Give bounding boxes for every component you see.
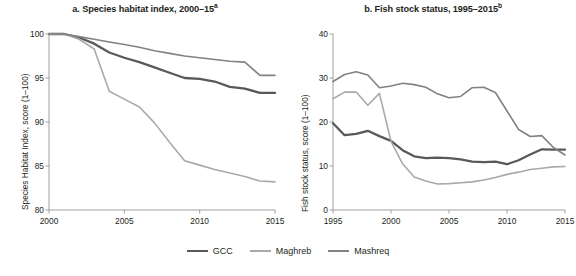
legend-swatch-icon — [328, 250, 349, 252]
plot-a-svg — [49, 34, 275, 210]
panel-b-y-axis-label: Fish stock status, score (1–100) — [300, 94, 310, 212]
legend-swatch-icon — [250, 250, 271, 252]
y-tick-label: 30 — [297, 73, 328, 83]
legend-item-gcc[interactable]: GCC — [187, 246, 233, 256]
series-line-maghreb — [333, 92, 565, 184]
y-tick-label: 10 — [297, 161, 328, 171]
figure-container: a. Species habitat index, 2000–15a Speci… — [0, 0, 576, 276]
figure-legend: GCCMaghrebMashreq — [0, 246, 576, 256]
y-tick-label: 95 — [13, 73, 44, 83]
y-tick-label: 0 — [297, 205, 328, 215]
panel-b-title: b. Fish stock status, 1995–2015b — [290, 4, 576, 14]
x-tick-label: 2010 — [498, 216, 517, 226]
series-line-mashreq — [333, 72, 565, 155]
series-line-gcc — [49, 34, 275, 93]
series-line-gcc — [333, 123, 565, 164]
chart-panel-b: b. Fish stock status, 1995–2015b Fish st… — [290, 0, 576, 240]
x-tick-label: 2005 — [115, 216, 134, 226]
y-tick-label: 20 — [297, 117, 328, 127]
panel-b-title-text: b. Fish stock status, 1995–2015 — [364, 4, 498, 14]
x-tick-label: 2005 — [440, 216, 459, 226]
legend-label: GCC — [213, 246, 233, 256]
panel-b-title-superscript: b — [498, 2, 502, 9]
panel-a-plot-area — [49, 34, 275, 210]
panel-a-title-superscript: a — [214, 2, 218, 9]
y-tick-label: 85 — [13, 161, 44, 171]
y-tick-label: 40 — [297, 29, 328, 39]
legend-label: Maghreb — [276, 246, 312, 256]
panel-b-plot-area — [333, 34, 565, 210]
legend-item-mashreq[interactable]: Mashreq — [328, 246, 389, 256]
plot-b-svg — [333, 34, 565, 210]
panel-a-title-text: a. Species habitat index, 2000–15 — [72, 4, 214, 14]
x-tick-label: 2010 — [190, 216, 209, 226]
legend-item-maghreb[interactable]: Maghreb — [250, 246, 312, 256]
x-tick-label: 2000 — [40, 216, 59, 226]
y-tick-label: 90 — [13, 117, 44, 127]
x-tick-label: 2000 — [382, 216, 401, 226]
x-tick-label: 1995 — [324, 216, 343, 226]
y-tick-label: 80 — [13, 205, 44, 215]
series-line-maghreb — [49, 34, 275, 182]
legend-label: Mashreq — [354, 246, 389, 256]
x-tick-label: 2015 — [556, 216, 575, 226]
panel-a-y-axis-label: Species Habitat Index, score (1–100) — [20, 73, 30, 210]
chart-panel-a: a. Species habitat index, 2000–15a Speci… — [0, 0, 290, 240]
legend-swatch-icon — [187, 250, 208, 253]
panel-a-title: a. Species habitat index, 2000–15a — [0, 4, 290, 14]
y-tick-label: 100 — [13, 29, 44, 39]
x-tick-label: 2015 — [266, 216, 285, 226]
